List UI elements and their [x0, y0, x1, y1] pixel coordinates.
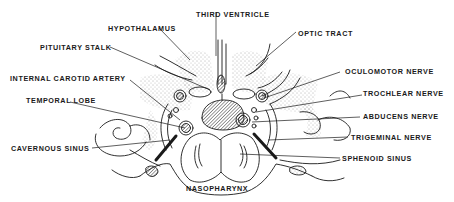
label-abducens-nerve: ABDUCENS NERVE [363, 113, 439, 120]
label-sphenoid-sinus: SPHENOID SINUS [342, 155, 412, 162]
anatomy-diagram: THIRD VENTRICLE HYPOTHALAMUS OPTIC TRACT… [0, 0, 454, 202]
label-trochlear-nerve: TROCHLEAR NERVE [363, 90, 444, 97]
label-optic-tract: OPTIC TRACT [298, 30, 353, 37]
label-nasopharynx: NASOPHARYNX [186, 185, 248, 192]
label-temporal-lobe: TEMPORAL LOBE [26, 97, 96, 104]
label-trigeminal-nerve: TRIGEMINAL NERVE [351, 134, 432, 141]
label-internal-carotid-artery: INTERNAL CAROTID ARTERY [10, 75, 126, 82]
label-third-ventricle: THIRD VENTRICLE [196, 11, 270, 18]
label-hypothalamus: HYPOTHALAMUS [108, 25, 176, 32]
label-oculomotor-nerve: OCULOMOTOR NERVE [345, 68, 434, 75]
label-cavernous-sinus: CAVERNOUS SINUS [11, 145, 89, 152]
label-pituitary-stalk: PITUITARY STALK [40, 44, 111, 51]
